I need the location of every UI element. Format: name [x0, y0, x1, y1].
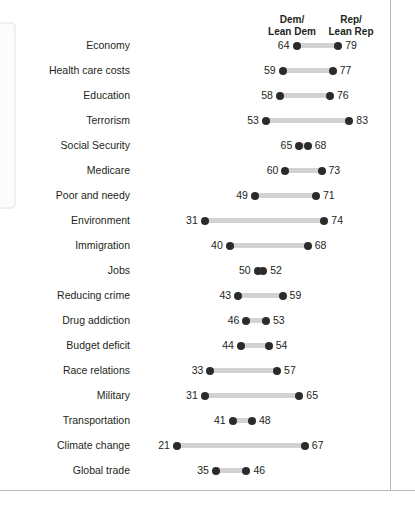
value-label-left: 46 [184, 314, 239, 326]
chart-row: Education5876 [0, 83, 390, 108]
row-plot: 4971 [0, 183, 390, 208]
value-label-right: 57 [284, 364, 339, 376]
rep-dot [304, 142, 312, 150]
rep-dot [242, 467, 250, 475]
row-plot: 5383 [0, 108, 390, 133]
value-label-left: 58 [218, 89, 273, 101]
connector-bar [177, 443, 305, 448]
value-label-left: 59 [221, 64, 276, 76]
connector-bar [205, 393, 300, 398]
row-plot: 5052 [0, 258, 390, 283]
row-plot: 6479 [0, 33, 390, 58]
chart-row: Race relations3357 [0, 358, 390, 383]
rep-dot [312, 192, 320, 200]
value-label-left: 33 [148, 364, 203, 376]
dem-dot [293, 42, 301, 50]
dem-dot [206, 367, 214, 375]
dem-dot [234, 292, 242, 300]
row-plot: 4653 [0, 308, 390, 333]
rep-dot [295, 392, 303, 400]
rep-dot [248, 417, 256, 425]
row-plot: 4359 [0, 283, 390, 308]
rep-dot [304, 242, 312, 250]
dem-dot [251, 192, 259, 200]
value-label-right: 68 [315, 139, 370, 151]
row-plot: 6073 [0, 158, 390, 183]
connector-bar [205, 218, 325, 223]
value-label-right: 68 [315, 239, 370, 251]
chart-row: Budget deficit4454 [0, 333, 390, 358]
chart-row: Immigration4068 [0, 233, 390, 258]
connector-bar [285, 168, 321, 173]
value-label-right: 48 [259, 414, 314, 426]
row-plot: 3357 [0, 358, 390, 383]
value-label-right: 74 [331, 214, 386, 226]
value-label-right: 73 [329, 164, 384, 176]
value-label-right: 76 [337, 89, 392, 101]
rep-dot [301, 442, 309, 450]
connector-bar [280, 93, 330, 98]
chart-row: Health care costs5977 [0, 58, 390, 83]
chart-row: Environment3174 [0, 208, 390, 233]
value-label-left: 50 [196, 264, 251, 276]
value-label-right: 83 [356, 114, 411, 126]
page-frame-bottom-border [0, 490, 415, 491]
dem-dot [281, 167, 289, 175]
dem-dot [201, 217, 209, 225]
value-label-left: 40 [168, 239, 223, 251]
chart-row: Reducing crime4359 [0, 283, 390, 308]
value-label-right: 79 [345, 39, 400, 51]
value-label-left: 21 [115, 439, 170, 451]
rep-dot [320, 217, 328, 225]
row-plot: 3546 [0, 458, 390, 483]
dem-dot [237, 342, 245, 350]
value-label-left: 49 [193, 189, 248, 201]
value-label-right: 77 [340, 64, 395, 76]
rep-dot [279, 292, 287, 300]
connector-bar [238, 293, 282, 298]
connector-bar [255, 193, 316, 198]
dem-dot [212, 467, 220, 475]
chart-row: Social Security6568 [0, 133, 390, 158]
value-label-left: 31 [143, 214, 198, 226]
rep-dot [334, 42, 342, 50]
rep-dot [265, 342, 273, 350]
chart-row: Jobs5052 [0, 258, 390, 283]
chart-row: Global trade3546 [0, 458, 390, 483]
value-label-left: 41 [171, 414, 226, 426]
chart-row: Drug addiction4653 [0, 308, 390, 333]
chart-row: Climate change2167 [0, 433, 390, 458]
dem-dot [276, 92, 284, 100]
row-plot: 3174 [0, 208, 390, 233]
value-label-right: 59 [290, 289, 345, 301]
value-label-left: 60 [223, 164, 278, 176]
value-label-left: 44 [179, 339, 234, 351]
value-label-left: 53 [204, 114, 259, 126]
dem-dot [279, 67, 287, 75]
chart-row: Military3165 [0, 383, 390, 408]
value-label-right: 52 [270, 264, 325, 276]
value-label-right: 54 [276, 339, 331, 351]
dem-dot [262, 117, 270, 125]
row-plot: 2167 [0, 433, 390, 458]
dem-dot [226, 242, 234, 250]
chart-row: Medicare6073 [0, 158, 390, 183]
value-label-right: 53 [273, 314, 328, 326]
row-plot: 6568 [0, 133, 390, 158]
rep-dot [262, 317, 270, 325]
rep-dot [273, 367, 281, 375]
value-label-left: 43 [176, 289, 231, 301]
chart-row: Poor and needy4971 [0, 183, 390, 208]
value-label-right: 71 [323, 189, 378, 201]
row-plot: 3165 [0, 383, 390, 408]
rep-dot [326, 92, 334, 100]
rep-dot [259, 267, 267, 275]
row-plot: 4148 [0, 408, 390, 433]
connector-bar [283, 68, 333, 73]
value-label-left: 64 [235, 39, 290, 51]
row-plot: 5876 [0, 83, 390, 108]
dem-dot [295, 142, 303, 150]
value-label-left: 65 [237, 139, 292, 151]
dem-dot [173, 442, 181, 450]
connector-bar [266, 118, 349, 123]
